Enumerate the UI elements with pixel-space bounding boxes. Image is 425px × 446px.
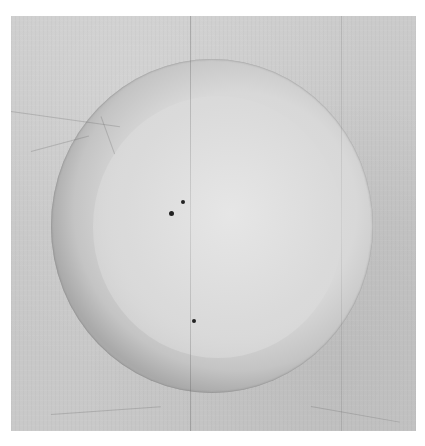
circle-inner-light (93, 96, 343, 358)
ink-spot (181, 200, 185, 204)
ink-spot (169, 211, 174, 216)
aged-paper (11, 16, 416, 431)
vertical-crease (190, 16, 191, 431)
vertical-crease-right (341, 16, 342, 431)
ink-spot (192, 319, 196, 323)
